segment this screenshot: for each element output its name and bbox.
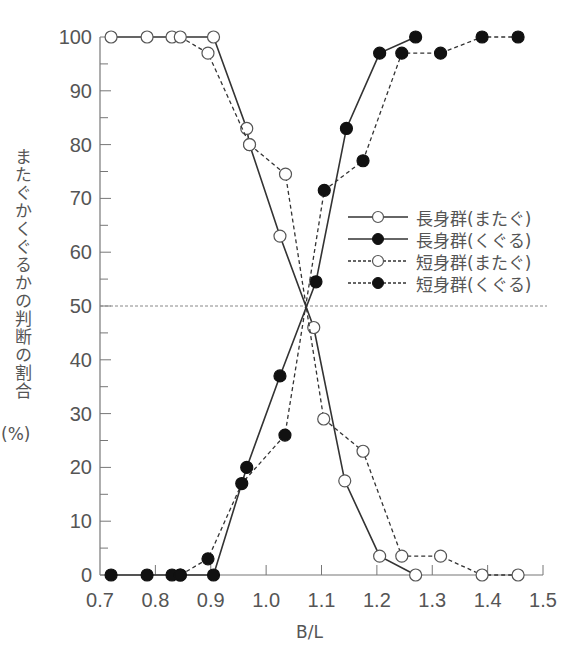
y-tick-label: 90: [70, 80, 92, 102]
open-circle-marker: [374, 550, 386, 562]
y-tick-label: 20: [70, 456, 92, 478]
filled-circle-marker: [512, 31, 524, 43]
open-circle-marker: [357, 445, 369, 457]
legend-item-short-crawl: 短身群(くぐる): [346, 272, 531, 294]
filled-circle-marker: [374, 47, 386, 59]
x-tick-label: 1.1: [308, 589, 336, 611]
open-circle-marker: [512, 569, 524, 581]
filled-circle-marker: [174, 569, 186, 581]
x-tick-label: 1.2: [363, 589, 391, 611]
line-chart: 01020304050607080901000.70.80.91.01.11.2…: [0, 0, 577, 661]
y-tick-label: 10: [70, 510, 92, 532]
y-tick-label: 40: [70, 349, 92, 371]
open-circle-marker: [274, 230, 286, 242]
y-axis-label: またぐかくぐるかの判断の割合: [6, 148, 32, 400]
y-tick-label: 70: [70, 187, 92, 209]
legend: 長身群(またぐ) 長身群(くぐる) 短身群(またぐ) 短身群(くぐる): [346, 206, 531, 294]
filled-circle-marker: [105, 569, 117, 581]
open-circle-marker: [318, 413, 330, 425]
filled-circle-marker: [279, 429, 291, 441]
filled-circle-marker: [208, 569, 220, 581]
x-tick-label: 0.8: [141, 589, 169, 611]
y-tick-label: 30: [70, 403, 92, 425]
open-circle-marker: [141, 31, 153, 43]
filled-circle-marker: [241, 461, 253, 473]
filled-circle-marker: [435, 47, 447, 59]
open-circle-marker: [339, 475, 351, 487]
y-axis-unit: (%): [1, 424, 30, 444]
open-circle-marker: [476, 569, 488, 581]
x-tick-label: 1.0: [252, 589, 280, 611]
solid-line-filled-marker-icon: [346, 231, 410, 247]
filled-circle-marker: [357, 155, 369, 167]
y-tick-label: 0: [81, 564, 92, 586]
open-circle-marker: [202, 47, 214, 59]
open-circle-marker: [280, 168, 292, 180]
x-tick-label: 1.4: [474, 589, 502, 611]
filled-circle-marker: [410, 31, 422, 43]
dashed-line-filled-marker-icon: [346, 275, 410, 291]
x-tick-label: 1.3: [418, 589, 446, 611]
legend-item-short-step: 短身群(またぐ): [346, 250, 531, 272]
y-tick-label: 100: [59, 26, 92, 48]
y-tick-label: 60: [70, 241, 92, 263]
x-tick-label: 1.5: [529, 589, 557, 611]
open-circle-marker: [244, 139, 256, 151]
legend-item-tall-crawl: 長身群(くぐる): [346, 228, 531, 250]
filled-circle-marker: [396, 47, 408, 59]
open-circle-marker: [410, 569, 422, 581]
filled-circle-marker: [236, 478, 248, 490]
open-circle-marker: [174, 31, 186, 43]
filled-circle-marker: [274, 370, 286, 382]
solid-line-open-marker-icon: [346, 209, 410, 225]
legend-label: 短身群(くぐる): [416, 271, 531, 296]
legend-item-tall-step: 長身群(またぐ): [346, 206, 531, 228]
open-circle-marker: [435, 550, 447, 562]
filled-circle-marker: [318, 184, 330, 196]
filled-circle-marker: [340, 122, 352, 134]
open-circle-marker: [208, 31, 220, 43]
x-tick-label: 0.7: [86, 589, 114, 611]
open-circle-marker: [105, 31, 117, 43]
filled-circle-marker: [476, 31, 488, 43]
y-tick-label: 50: [70, 295, 92, 317]
x-axis-label: B/L: [296, 622, 323, 642]
filled-circle-marker: [202, 553, 214, 565]
x-tick-label: 0.9: [197, 589, 225, 611]
open-circle-marker: [396, 550, 408, 562]
dashed-line-open-marker-icon: [346, 253, 410, 269]
filled-circle-marker: [310, 276, 322, 288]
filled-circle-marker: [141, 569, 153, 581]
y-tick-label: 80: [70, 134, 92, 156]
